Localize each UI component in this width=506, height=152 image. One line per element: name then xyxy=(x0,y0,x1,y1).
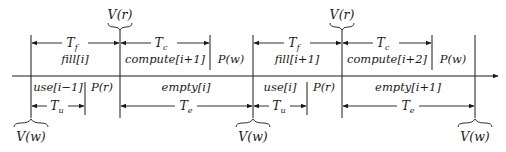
segment-p-r: P(r) xyxy=(312,80,335,94)
v-w-marker-1: V(w) xyxy=(14,119,48,144)
v-r-label: V(r) xyxy=(108,7,133,22)
interval-tc-label: Tc xyxy=(155,35,168,52)
v-w-label: V(w) xyxy=(460,129,490,144)
upper-row: fill[i] compute[i+1] P(w) fill[i+1] comp… xyxy=(60,52,466,66)
segment-p-r: P(r) xyxy=(90,80,113,94)
v-w-marker-2: V(w) xyxy=(236,119,270,144)
lower-row: use[i−1] P(r) empty[i] use[i] P(r) empty… xyxy=(33,80,441,94)
v-r-marker-1: V(r) xyxy=(108,7,133,30)
segment-p-w: P(w) xyxy=(217,52,245,66)
overbrace-icon xyxy=(14,119,48,127)
overbrace-icon xyxy=(458,119,492,127)
interval-tf-label: Tf xyxy=(288,35,301,52)
interval-tf-label: Tf xyxy=(66,35,79,52)
upper-interval-labels: Tf Tc Tf Tc xyxy=(66,35,390,52)
v-w-marker-3: V(w) xyxy=(458,119,492,144)
lower-interval-labels: Tu Te Tu Te xyxy=(50,98,415,115)
v-r-marker-2: V(r) xyxy=(330,7,355,30)
interval-tc-label: Tc xyxy=(377,35,390,52)
segment-use-i-minus-1: use[i−1] xyxy=(33,80,83,94)
segment-p-w: P(w) xyxy=(439,52,467,66)
v-r-label: V(r) xyxy=(330,7,355,22)
segment-empty-i-plus-1: empty[i+1] xyxy=(375,80,441,94)
v-w-label: V(w) xyxy=(16,129,46,144)
underbrace-icon xyxy=(108,23,132,30)
underbrace-icon xyxy=(330,23,354,30)
segment-use-i: use[i] xyxy=(264,80,297,94)
overbrace-icon xyxy=(236,119,270,127)
segment-fill-i: fill[i] xyxy=(60,52,89,66)
interval-te-label: Te xyxy=(179,98,192,115)
segment-compute-i-plus-1: compute[i+1] xyxy=(125,52,206,66)
interval-te-label: Te xyxy=(401,98,414,115)
interval-tu-label: Tu xyxy=(272,98,286,115)
segment-empty-i: empty[i] xyxy=(162,80,211,94)
v-w-label: V(w) xyxy=(238,129,268,144)
segment-fill-i-plus-1: fill[i+1] xyxy=(274,52,320,66)
segment-compute-i-plus-2: compute[i+2] xyxy=(347,52,428,66)
interval-tu-label: Tu xyxy=(50,98,64,115)
pipeline-timing-diagram: V(r) V(r) Tf Tc Tf Tc fill[i] compute[i+… xyxy=(0,0,506,152)
